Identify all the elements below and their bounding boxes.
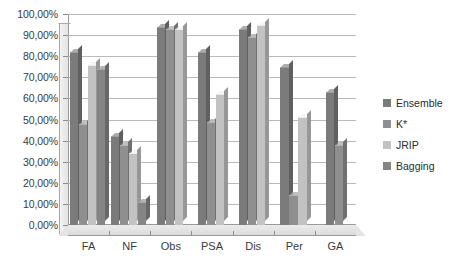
x-axis: FANFObsPSADisPerGA bbox=[68, 240, 356, 262]
plot-area bbox=[68, 14, 356, 225]
y-tick-label: 70,00% bbox=[23, 71, 58, 83]
y-tick-label: 90,00% bbox=[23, 29, 58, 41]
bar-side-face bbox=[224, 87, 228, 221]
y-tick-label: 100,00% bbox=[17, 8, 58, 20]
bar bbox=[166, 29, 175, 225]
legend-item[interactable]: Bagging bbox=[383, 155, 457, 176]
legend-label: Bagging bbox=[396, 160, 435, 172]
bar bbox=[157, 27, 166, 225]
legend-item[interactable]: Ensemble bbox=[383, 92, 457, 113]
bar bbox=[207, 122, 216, 225]
bar bbox=[257, 25, 266, 225]
x-tick-mark bbox=[191, 231, 192, 235]
bar-group bbox=[191, 14, 232, 225]
bar-group bbox=[150, 14, 191, 225]
x-tick-mark bbox=[150, 231, 151, 235]
bar bbox=[111, 136, 120, 225]
legend-item[interactable]: JRIP bbox=[383, 134, 457, 155]
x-tick-label: Per bbox=[286, 240, 303, 252]
bar bbox=[335, 145, 344, 225]
bar bbox=[298, 117, 307, 225]
bar bbox=[88, 65, 97, 225]
legend-swatch-icon bbox=[383, 141, 391, 149]
y-tick-label: 30,00% bbox=[23, 156, 58, 168]
bar-group bbox=[109, 14, 150, 225]
bar-group bbox=[68, 14, 109, 225]
legend-label: JRIP bbox=[396, 139, 419, 151]
x-tick-label: PSA bbox=[201, 240, 223, 252]
legend-swatch-icon bbox=[383, 162, 391, 170]
bar bbox=[280, 67, 289, 225]
bar bbox=[138, 202, 147, 225]
bar bbox=[120, 145, 129, 225]
legend-swatch-icon bbox=[383, 99, 391, 107]
y-tick-label: 80,00% bbox=[23, 50, 58, 62]
bar-side-face bbox=[183, 22, 187, 221]
bar bbox=[175, 29, 184, 225]
y-axis: 0,00%10,00%20,00%30,00%40,00%50,00%60,00… bbox=[0, 0, 62, 275]
bar bbox=[97, 69, 106, 225]
plot-side-wall bbox=[59, 23, 68, 234]
x-tick-label: Obs bbox=[161, 240, 181, 252]
y-tick-label: 20,00% bbox=[23, 177, 58, 189]
y-tick-label: 50,00% bbox=[23, 114, 58, 126]
bar-side-face bbox=[307, 110, 311, 221]
plot-floor-right-bevel bbox=[356, 225, 366, 236]
bar bbox=[79, 124, 88, 225]
x-tick-label: NF bbox=[122, 240, 137, 252]
legend-swatch-icon bbox=[383, 120, 391, 128]
bar bbox=[198, 52, 207, 225]
legend-item[interactable]: K* bbox=[383, 113, 457, 134]
bar bbox=[216, 94, 225, 225]
x-tick-mark bbox=[274, 231, 275, 235]
plot-floor bbox=[68, 225, 356, 236]
bar bbox=[326, 92, 335, 225]
bar bbox=[248, 37, 257, 225]
bars-layer bbox=[68, 14, 356, 225]
y-tick-label: 40,00% bbox=[23, 135, 58, 147]
bar-group bbox=[315, 14, 356, 225]
bar bbox=[289, 195, 298, 225]
x-tick-mark bbox=[315, 231, 316, 235]
x-tick-mark bbox=[233, 231, 234, 235]
legend-label: K* bbox=[396, 118, 407, 130]
y-tick-label: 10,00% bbox=[23, 198, 58, 210]
y-tick-mark bbox=[63, 225, 68, 226]
bar-group bbox=[274, 14, 315, 225]
bar-side-face bbox=[343, 138, 347, 221]
x-tick-label: FA bbox=[82, 240, 95, 252]
x-tick-label: GA bbox=[327, 240, 343, 252]
bar bbox=[239, 29, 248, 225]
bar bbox=[129, 153, 138, 225]
x-tick-label: Dis bbox=[245, 240, 261, 252]
y-tick-label: 0,00% bbox=[29, 219, 58, 231]
x-tick-mark bbox=[109, 231, 110, 235]
bar-group bbox=[233, 14, 274, 225]
y-tick-label: 60,00% bbox=[23, 92, 58, 104]
bar bbox=[70, 52, 79, 225]
bar-chart: 0,00%10,00%20,00%30,00%40,00%50,00%60,00… bbox=[0, 0, 460, 275]
bar-side-face bbox=[265, 18, 269, 221]
legend-label: Ensemble bbox=[396, 97, 443, 109]
chart-legend: EnsembleK*JRIPBagging bbox=[383, 92, 457, 176]
